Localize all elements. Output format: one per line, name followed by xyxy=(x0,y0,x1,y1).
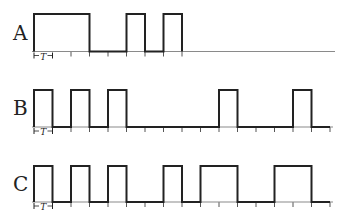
signal-row-c: C T xyxy=(13,166,333,212)
timing-diagram: A T B T C T xyxy=(0,0,347,222)
period-bracket-b: T xyxy=(34,127,53,137)
row-label-a: A xyxy=(12,21,28,45)
row-label-c: C xyxy=(13,172,28,196)
signal-row-b: B T xyxy=(13,90,333,137)
waveform-b xyxy=(34,90,330,127)
row-label-b: B xyxy=(13,96,28,120)
period-label-b: T xyxy=(40,127,47,137)
period-label-c: T xyxy=(40,202,47,212)
waveform-c xyxy=(34,166,330,202)
waveform-a xyxy=(34,14,182,52)
period-label-a: T xyxy=(40,52,47,62)
signal-row-a: A T xyxy=(12,14,335,62)
period-bracket-a: T xyxy=(34,52,53,62)
period-bracket-c: T xyxy=(34,202,53,212)
